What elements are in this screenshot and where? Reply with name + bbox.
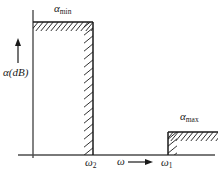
alpha-max-symbol: α bbox=[180, 110, 186, 122]
alpha-min-symbol: α bbox=[54, 2, 60, 14]
omega2-tick-label: ω2 bbox=[85, 157, 97, 168]
omega2-symbol: ω bbox=[85, 156, 93, 168]
omega2-subscript: 2 bbox=[93, 161, 97, 170]
alpha-min-boundary bbox=[33, 22, 93, 155]
alpha-max-subscript: max bbox=[186, 115, 199, 124]
y-axis-arrow-icon bbox=[15, 38, 21, 63]
omega1-tick-label: ω1 bbox=[161, 157, 173, 168]
alpha-max-label: αmax bbox=[180, 111, 199, 122]
filter-specification-figure: αmin αmax α(dB) ω2 ω1 ω bbox=[0, 0, 224, 177]
omega1-subscript: 1 bbox=[169, 161, 173, 170]
omega1-symbol: ω bbox=[161, 156, 169, 168]
y-axis-label: α(dB) bbox=[3, 67, 28, 78]
omega-axis-label: ω bbox=[117, 156, 125, 167]
alpha-min-subscript: min bbox=[60, 7, 72, 16]
figure-canvas bbox=[0, 0, 224, 177]
omega-axis-arrow-icon bbox=[128, 159, 153, 165]
alpha-min-label: αmin bbox=[54, 3, 71, 14]
